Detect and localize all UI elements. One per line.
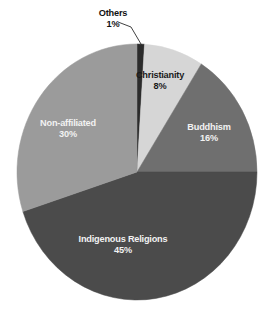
pie-slice-group [17,44,257,300]
pie-chart-svg [0,0,272,309]
leader-line-group [118,22,143,47]
leader-line-others [118,22,143,47]
pie-chart-figure: Others 1% Christianity 8% Buddhism 16% I… [0,0,272,309]
